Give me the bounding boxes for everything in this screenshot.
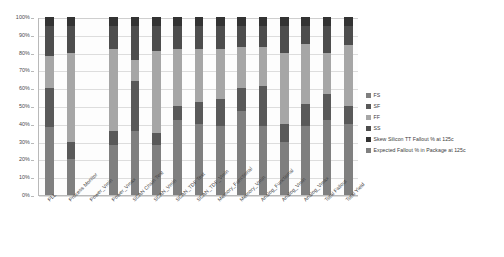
bar-segment[interactable] xyxy=(259,86,268,125)
y-tick-label: 90% xyxy=(19,33,30,38)
bar-segment[interactable] xyxy=(152,51,161,133)
bar-segment[interactable] xyxy=(109,131,118,145)
bar-segment[interactable] xyxy=(152,17,161,26)
y-tick-label: 70% xyxy=(19,69,30,74)
bar-stack xyxy=(131,18,140,195)
bar-segment[interactable] xyxy=(152,133,161,145)
bar-segment[interactable] xyxy=(109,49,118,131)
bar-stack xyxy=(67,18,76,195)
bar-segment[interactable] xyxy=(237,47,246,88)
bar-segment[interactable] xyxy=(301,104,310,125)
bar-segment[interactable] xyxy=(67,17,76,26)
bar-segment[interactable] xyxy=(259,26,268,47)
bar-segment[interactable] xyxy=(301,17,310,26)
bar-segment[interactable] xyxy=(216,99,225,126)
bar-segment[interactable] xyxy=(344,17,353,26)
bar-segment[interactable] xyxy=(344,26,353,46)
legend-swatch xyxy=(366,104,371,109)
bar-segment[interactable] xyxy=(173,106,182,120)
bar-segment[interactable] xyxy=(67,53,76,142)
bar-segment[interactable] xyxy=(45,56,54,88)
bar-segment[interactable] xyxy=(109,145,118,195)
bar-segment[interactable] xyxy=(237,88,246,111)
y-tick-mark xyxy=(31,18,34,19)
bar-segment[interactable] xyxy=(259,47,268,86)
bar-segment[interactable] xyxy=(280,53,289,124)
bar-column[interactable] xyxy=(88,18,97,195)
bar-segment[interactable] xyxy=(216,26,225,49)
bar-column[interactable] xyxy=(301,18,310,195)
legend-item[interactable]: FS xyxy=(366,90,502,101)
bar-segment[interactable] xyxy=(195,49,204,102)
bar-column[interactable] xyxy=(131,18,140,195)
bar-segment[interactable] xyxy=(301,26,310,44)
bar-segment[interactable] xyxy=(216,49,225,99)
bar-segment[interactable] xyxy=(323,26,332,53)
legend-item[interactable]: Expected Fallout % in Package at 125c xyxy=(366,145,502,156)
legend-item[interactable]: Skew Silicon TT Fallout % at 125c xyxy=(366,134,502,145)
bar-segment[interactable] xyxy=(259,17,268,26)
bar-segment[interactable] xyxy=(280,26,289,53)
bar-segment[interactable] xyxy=(45,17,54,26)
bar-segment[interactable] xyxy=(323,94,332,121)
bar-segment[interactable] xyxy=(131,26,140,60)
bar-segment[interactable] xyxy=(237,17,246,26)
y-tick-label: 10% xyxy=(19,175,30,180)
legend-item[interactable]: SF xyxy=(366,101,502,112)
bar-segment[interactable] xyxy=(131,81,140,131)
bar-segment[interactable] xyxy=(280,17,289,26)
y-tick-label: 100% xyxy=(16,15,30,20)
legend-label: FF xyxy=(374,115,380,120)
bar-segment[interactable] xyxy=(45,88,54,127)
bar-column[interactable] xyxy=(67,18,76,195)
bar-segment[interactable] xyxy=(152,26,161,51)
bar-segment[interactable] xyxy=(173,26,182,49)
legend-item[interactable]: SS xyxy=(366,123,502,134)
bar-stack xyxy=(301,18,310,195)
bar-segment[interactable] xyxy=(131,17,140,26)
bar-column[interactable] xyxy=(323,18,332,195)
bar-column[interactable] xyxy=(259,18,268,195)
y-tick-label: 0% xyxy=(22,193,30,198)
bar-stack xyxy=(173,18,182,195)
bar-segment[interactable] xyxy=(237,26,246,47)
bar-column[interactable] xyxy=(173,18,182,195)
bar-segment[interactable] xyxy=(131,131,140,195)
bar-stack xyxy=(344,18,353,195)
y-tick-mark xyxy=(31,36,34,37)
bar-segment[interactable] xyxy=(67,26,76,53)
bar-segment[interactable] xyxy=(323,53,332,94)
bar-column[interactable] xyxy=(45,18,54,195)
plot-area xyxy=(38,18,358,196)
y-tick-mark xyxy=(31,107,34,108)
bar-segment[interactable] xyxy=(109,17,118,26)
legend-label: Expected Fallout % in Package at 125c xyxy=(374,148,466,153)
bar-segment[interactable] xyxy=(195,26,204,49)
chart-legend: FSSFFFSSSkew Silicon TT Fallout % at 125… xyxy=(366,90,502,156)
y-tick-label: 50% xyxy=(19,104,30,109)
bar-segment[interactable] xyxy=(280,124,289,142)
bar-segment[interactable] xyxy=(131,60,140,81)
legend-swatch xyxy=(366,126,371,131)
bar-column[interactable] xyxy=(344,18,353,195)
bar-column[interactable] xyxy=(109,18,118,195)
bar-segment[interactable] xyxy=(195,17,204,26)
bar-segment[interactable] xyxy=(323,17,332,26)
y-axis: 0%10%20%30%40%50%60%70%80%90%100% xyxy=(0,18,34,196)
bar-segment[interactable] xyxy=(173,49,182,106)
bar-segment[interactable] xyxy=(216,17,225,26)
bar-segment[interactable] xyxy=(301,44,310,105)
bar-segment[interactable] xyxy=(195,102,204,123)
bar-segment[interactable] xyxy=(344,106,353,124)
legend-item[interactable]: FF xyxy=(366,112,502,123)
bar-column[interactable] xyxy=(195,18,204,195)
y-tick-mark xyxy=(31,89,34,90)
y-tick-mark xyxy=(31,125,34,126)
bar-segment[interactable] xyxy=(344,45,353,106)
bar-segment[interactable] xyxy=(173,17,182,26)
bar-segment[interactable] xyxy=(109,26,118,49)
y-tick-mark xyxy=(31,71,34,72)
bar-segment[interactable] xyxy=(67,142,76,160)
bar-segment[interactable] xyxy=(45,127,54,195)
bar-segment[interactable] xyxy=(45,26,54,56)
